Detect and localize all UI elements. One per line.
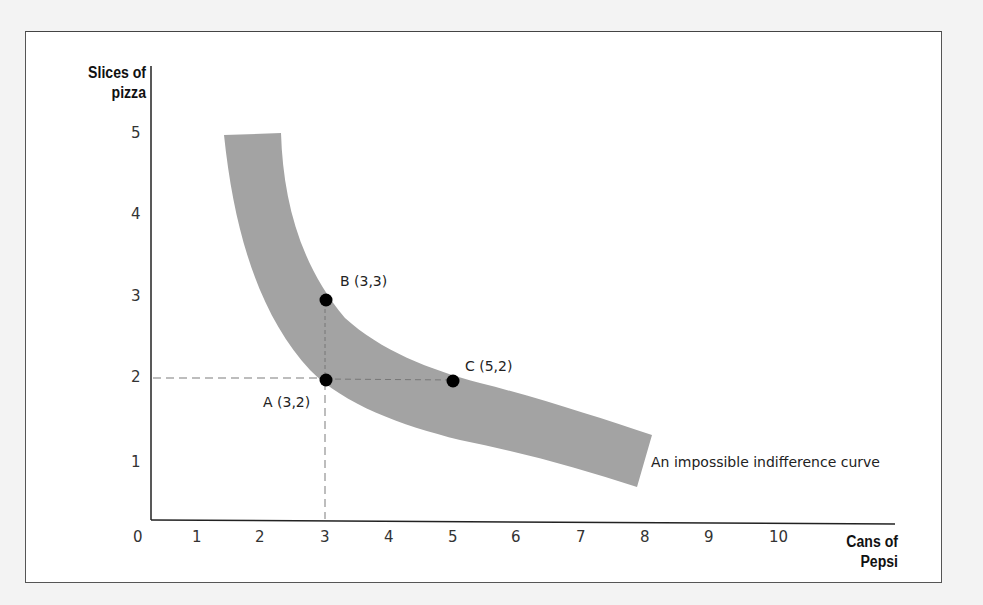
x-tick-7: 7 xyxy=(576,528,586,546)
y-tick-2: 2 xyxy=(131,368,141,386)
x-tick-0: 0 xyxy=(133,528,143,546)
x-tick-4: 4 xyxy=(384,528,394,546)
y-tick-4: 4 xyxy=(131,205,141,223)
x-axis-title-line2: Pepsi xyxy=(803,552,898,572)
y-tick-1: 1 xyxy=(131,453,141,471)
x-tick-8: 8 xyxy=(640,528,650,546)
point-a-label: A (3,2) xyxy=(263,394,310,410)
x-tick-6: 6 xyxy=(511,528,521,546)
point-b-label: B (3,3) xyxy=(340,273,387,289)
x-tick-2: 2 xyxy=(255,528,265,546)
y-tick-3: 3 xyxy=(131,287,141,305)
x-tick-10: 10 xyxy=(769,528,788,546)
x-tick-5: 5 xyxy=(448,528,458,546)
curve-annotation: An impossible indifference curve xyxy=(651,454,880,470)
x-tick-3: 3 xyxy=(320,528,330,546)
x-axis-title-line1: Cans of xyxy=(803,532,898,552)
y-axis-title-line2: pizza xyxy=(70,83,146,103)
indifference-curve-band xyxy=(224,133,652,487)
point-c xyxy=(447,375,460,388)
point-b xyxy=(320,294,333,307)
y-axis-title-line1: Slices of xyxy=(70,63,146,83)
y-tick-5: 5 xyxy=(131,124,141,142)
x-tick-9: 9 xyxy=(704,528,714,546)
point-c-label: C (5,2) xyxy=(465,358,512,374)
chart-canvas xyxy=(0,0,983,605)
x-tick-1: 1 xyxy=(192,528,202,546)
point-a xyxy=(320,374,333,387)
x-axis xyxy=(151,520,895,524)
y-axis-title: Slices of pizza xyxy=(70,63,146,103)
x-axis-title: Cans of Pepsi xyxy=(803,532,898,572)
